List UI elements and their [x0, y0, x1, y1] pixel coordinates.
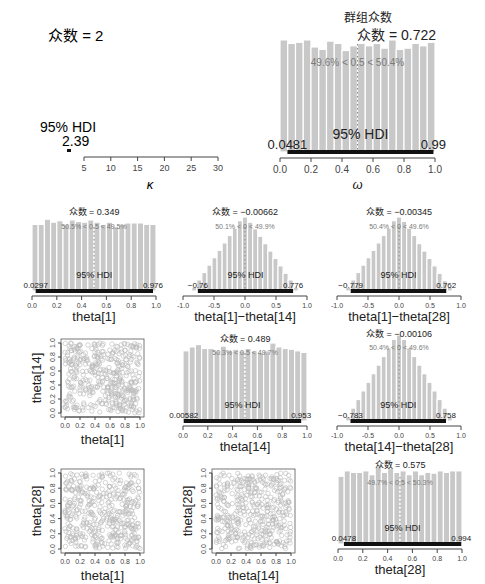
svg-text:0.0: 0.0 — [178, 432, 188, 439]
svg-text:0.2: 0.2 — [203, 432, 213, 439]
hdi-label: 95% HDI — [380, 400, 416, 410]
svg-text:-0.5: -0.5 — [208, 302, 220, 309]
diff-14-28-panel: 95% HDI−0.7830.758众数 = −0.0010650.4% < 0… — [325, 325, 485, 455]
hdi-high-value: 0.99 — [421, 137, 446, 152]
kappa-panel: 众数 = 2 95% HDI 2.39 51015202530 κ — [0, 0, 250, 192]
svg-text:10: 10 — [106, 163, 116, 173]
svg-text:1.0: 1.0 — [135, 558, 145, 565]
hdi-high-value: 0.758 — [436, 411, 457, 420]
svg-text:0.6: 0.6 — [105, 422, 115, 429]
omega-chart: 95% HDI0.04810.99众数 = 0.72249.6% < 0.5 <… — [260, 0, 485, 192]
x-axis: 0.00.20.40.60.81.0 — [211, 553, 296, 565]
svg-text:0.2: 0.2 — [200, 529, 207, 539]
svg-text:0.8: 0.8 — [49, 352, 56, 362]
hdi-label: 95% HDI — [227, 270, 263, 280]
compare-label: 50.5% < 0.5 < 49.5% — [61, 223, 126, 230]
svg-text:0.0: 0.0 — [49, 408, 56, 418]
svg-text:25: 25 — [186, 163, 196, 173]
hdi-low-value: −0.779 — [338, 281, 363, 290]
svg-text:-1.0: -1.0 — [331, 432, 343, 439]
svg-text:-0.5: -0.5 — [362, 432, 374, 439]
theta28-panel: 95% HDI0.04780.994众数 = 0.57549.7% < 0.5 … — [325, 455, 485, 584]
x-axis-label: theta[1]−theta[28] — [348, 309, 450, 324]
svg-text:1.0: 1.0 — [286, 558, 296, 565]
svg-text:20: 20 — [159, 163, 169, 173]
svg-text:0.0: 0.0 — [211, 558, 221, 565]
compare-label: 49.7% < 0.5 < 50.3% — [367, 479, 432, 486]
y-axis: 0.00.20.40.60.81.0 — [49, 338, 61, 418]
x-axis: -1.0-0.50.00.51.0 — [331, 296, 466, 309]
hdi-high-value: 0.762 — [436, 281, 457, 290]
svg-text:0.4: 0.4 — [335, 164, 349, 175]
mode-label: 众数 = −0.00662 — [212, 206, 278, 217]
scatter-14-28-plot: 0.00.20.40.60.81.00.00.20.40.60.81.0thet… — [165, 448, 325, 584]
svg-text:0.5: 0.5 — [425, 432, 435, 439]
x-axis: 0.00.20.40.60.81.0 — [273, 158, 442, 175]
svg-text:0.4: 0.4 — [49, 380, 56, 390]
svg-text:0.8: 0.8 — [49, 483, 56, 493]
svg-text:0.4: 0.4 — [49, 514, 56, 524]
scatter-points — [214, 471, 293, 551]
y-axis: 0.00.20.40.60.81.0 — [200, 468, 212, 554]
svg-text:0.4: 0.4 — [228, 432, 238, 439]
y-axis: 0.00.20.40.60.81.0 — [49, 468, 61, 554]
svg-text:0.8: 0.8 — [126, 302, 136, 309]
compare-label: 50.4% < 0 < 49.6% — [369, 223, 429, 230]
x-axis-label: theta[1] — [81, 432, 124, 447]
y-axis-label: theta[28] — [29, 486, 44, 537]
svg-text:30: 30 — [213, 163, 223, 173]
hdi-high-value: 0.976 — [143, 281, 164, 290]
svg-text:1.0: 1.0 — [302, 432, 312, 439]
hdi-low-value: 0.0481 — [268, 137, 308, 152]
svg-text:0.0: 0.0 — [27, 302, 37, 309]
x-axis-label: theta[28] — [375, 562, 426, 577]
svg-text:0.6: 0.6 — [253, 432, 263, 439]
hdi-label: 95% HDI — [76, 270, 112, 280]
hdi-low-value: 0.00582 — [169, 411, 198, 420]
svg-text:0.0: 0.0 — [273, 164, 287, 175]
x-axis: 0.00.20.40.60.81.0 — [178, 426, 312, 439]
compare-label: 50.3% < 0.5 < 49.7% — [212, 349, 277, 356]
svg-text:0.6: 0.6 — [49, 366, 56, 376]
svg-text:0.2: 0.2 — [75, 422, 85, 429]
scatter-1-28-plot: 0.00.20.40.60.81.00.00.20.40.60.81.0thet… — [0, 448, 170, 584]
theta14-panel: 95% HDI0.005820.953众数 = 0.48950.3% < 0.5… — [165, 325, 325, 455]
svg-text:1.0: 1.0 — [49, 468, 56, 478]
x-axis-label: theta[14] — [228, 568, 279, 583]
svg-text:15: 15 — [133, 163, 143, 173]
x-axis: -1.0-0.50.00.51.0 — [177, 296, 312, 309]
mode-label: 众数 = 0.349 — [69, 206, 120, 217]
hdi-high-value: 0.776 — [283, 281, 304, 290]
svg-text:0.2: 0.2 — [49, 529, 56, 539]
svg-text:1.0: 1.0 — [151, 302, 161, 309]
diff-14-28-histogram: 95% HDI−0.7830.758众数 = −0.0010650.4% < 0… — [325, 325, 485, 455]
theta1-panel: 95% HDI0.02970.976众数 = 0.34950.5% < 0.5 … — [0, 195, 170, 325]
svg-text:1.0: 1.0 — [135, 422, 145, 429]
scatter-1-28-panel: 0.00.20.40.60.81.00.00.20.40.60.81.0thet… — [0, 448, 170, 584]
svg-text:1.0: 1.0 — [456, 432, 466, 439]
kappa-hdi-bar — [67, 149, 71, 152]
svg-text:0.0: 0.0 — [394, 432, 404, 439]
svg-text:0.6: 0.6 — [49, 498, 56, 508]
svg-text:0.2: 0.2 — [358, 555, 368, 562]
x-axis-label: theta[14]−theta[28] — [345, 439, 454, 454]
hdi-low-value: −0.783 — [338, 411, 363, 420]
compare-label: 49.6% < 0.5 < 50.4% — [311, 57, 405, 68]
svg-text:0.0: 0.0 — [60, 422, 70, 429]
svg-text:0.5: 0.5 — [271, 302, 281, 309]
compare-label: 50.4% < 0 < 49.6% — [369, 344, 429, 351]
theta28-histogram: 95% HDI0.04780.994众数 = 0.57549.7% < 0.5 … — [325, 455, 485, 584]
svg-text:0.4: 0.4 — [383, 555, 393, 562]
compare-label: 50.1% < 0 < 49.9% — [215, 223, 275, 230]
scatter-points — [63, 341, 142, 415]
svg-text:0.0: 0.0 — [394, 302, 404, 309]
hdi-high-value: 0.994 — [451, 534, 472, 543]
theta1-histogram: 95% HDI0.02970.976众数 = 0.34950.5% < 0.5 … — [0, 195, 170, 325]
x-axis: -1.0-0.50.00.51.0 — [331, 426, 466, 439]
kappa-mode-label: 众数 = 2 — [48, 27, 103, 44]
diff-1-14-panel: 95% HDI−0.760.776众数 = −0.0066250.1% < 0 … — [165, 195, 325, 325]
mode-label: 众数 = 0.489 — [220, 333, 271, 344]
svg-text:-0.5: -0.5 — [362, 302, 374, 309]
hdi-label: 95% HDI — [380, 270, 416, 280]
svg-text:0.4: 0.4 — [90, 422, 100, 429]
